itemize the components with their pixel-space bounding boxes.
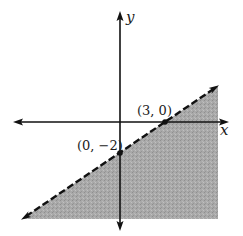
- y-axis-label: y: [125, 8, 135, 26]
- point-label-0-neg2: (0, −2): [77, 138, 123, 153]
- point-3-0: [162, 119, 168, 125]
- point-label-3-0: (3, 0): [137, 103, 172, 118]
- inequality-graph: y x (3, 0) (0, −2): [0, 0, 243, 236]
- x-axis-label: x: [220, 121, 229, 139]
